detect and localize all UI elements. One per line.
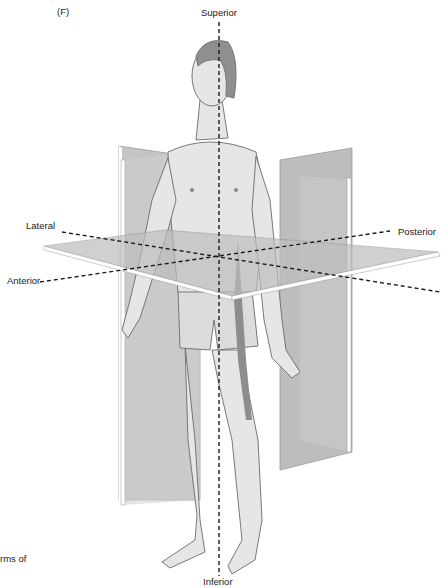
caption-fragment: rms of (0, 553, 26, 564)
inferior-label: Inferior (203, 576, 233, 587)
figure-drawing (0, 0, 443, 588)
transverse-plane (44, 230, 440, 300)
lateral-label: Lateral (26, 220, 55, 231)
panel-label: (F) (57, 6, 69, 17)
posterior-label: Posterior (398, 226, 436, 237)
anterior-label: Anterior (7, 275, 40, 286)
anatomical-planes-figure: (F) Superior Lateral Posterior Anterior … (0, 0, 443, 588)
superior-label: Superior (201, 7, 237, 18)
